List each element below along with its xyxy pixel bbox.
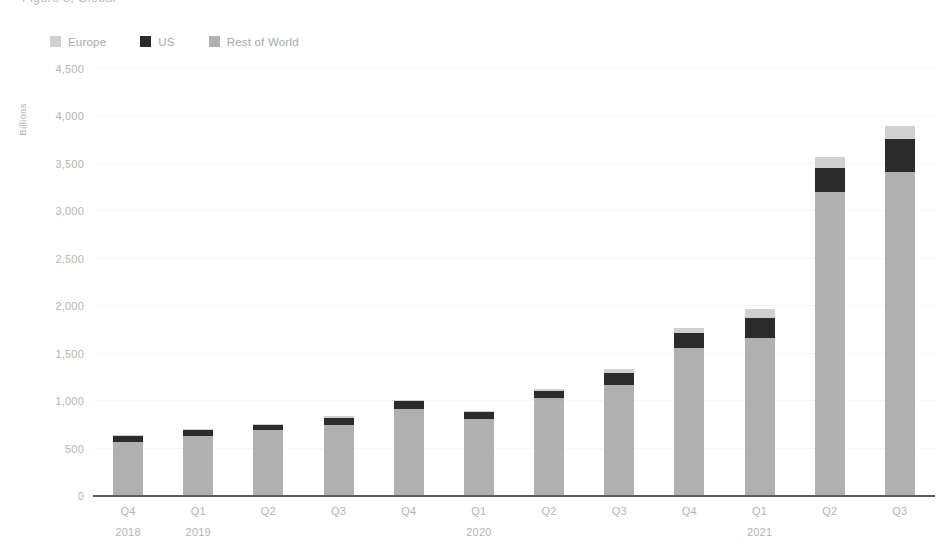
bar-segment-us[interactable]	[534, 391, 564, 398]
bar-group[interactable]	[113, 435, 143, 495]
bar-segment-us[interactable]	[674, 333, 704, 348]
bar-segment-us[interactable]	[394, 401, 424, 409]
bar-group[interactable]	[464, 411, 494, 495]
y-tick-label: 3,000	[55, 205, 84, 217]
bar-group[interactable]	[815, 157, 845, 495]
legend-swatch-icon	[140, 36, 151, 47]
x-tick-quarter: Q1	[444, 505, 514, 517]
legend-item-us[interactable]: US	[140, 36, 174, 48]
y-tick-label: 2,000	[55, 300, 84, 312]
bar-group[interactable]	[674, 328, 704, 495]
x-tick-year: 2020	[444, 526, 514, 538]
y-tick-label: 4,000	[55, 110, 84, 122]
x-tick-quarter: Q1	[725, 505, 795, 517]
bar-segment-us[interactable]	[604, 373, 634, 385]
chart-title-clipped: Figure 3, Global	[0, 0, 947, 9]
x-tick-quarter: Q3	[584, 505, 654, 517]
bar-segment-rest-of-world[interactable]	[885, 172, 915, 495]
page-title: Figure 3, Global	[0, 0, 947, 5]
plot-area: 4,5004,0003,5003,0002,5002,0001,5001,000…	[93, 68, 935, 495]
bar-group[interactable]	[534, 389, 564, 495]
legend-label: Rest of World	[227, 36, 299, 48]
x-tick-quarter: Q4	[93, 505, 163, 517]
bar-segment-us[interactable]	[815, 168, 845, 193]
bar-group[interactable]	[885, 126, 915, 495]
legend-label: US	[158, 36, 174, 48]
legend-swatch-icon	[50, 36, 61, 47]
x-tick-label: Q3	[865, 505, 935, 517]
x-tick-label: Q2	[233, 505, 303, 517]
y-axis-title: Billions	[14, 84, 30, 154]
y-tick-label: 1,500	[55, 348, 84, 360]
bar-group[interactable]	[394, 400, 424, 495]
x-tick-label: Q4	[654, 505, 724, 517]
y-axis-title-label: Billions	[17, 103, 28, 136]
x-tick-label: Q2	[795, 505, 865, 517]
stacked-bar-chart: Figure 3, Global EuropeUSRest of World B…	[0, 0, 947, 553]
x-tick-label: Q3	[304, 505, 374, 517]
bar-segment-rest-of-world[interactable]	[674, 348, 704, 495]
bar-segment-rest-of-world[interactable]	[604, 385, 634, 495]
y-tick-label: 4,500	[55, 63, 84, 75]
chart-legend: EuropeUSRest of World	[50, 34, 333, 49]
legend-item-europe[interactable]: Europe	[50, 36, 106, 48]
bar-segment-europe[interactable]	[815, 157, 845, 168]
bar-segment-rest-of-world[interactable]	[394, 409, 424, 495]
bar-group[interactable]	[745, 309, 775, 495]
y-tick-label: 0	[78, 490, 84, 502]
x-tick-label: Q12019	[163, 505, 233, 538]
x-tick-quarter: Q4	[374, 505, 444, 517]
x-tick-year: 2018	[93, 526, 163, 538]
bar-segment-us[interactable]	[885, 139, 915, 172]
bar-group[interactable]	[183, 429, 213, 495]
y-tick-label: 3,500	[55, 158, 84, 170]
bars-layer	[93, 68, 935, 495]
x-axis-labels: Q42018Q12019Q2Q3Q4Q12020Q2Q3Q4Q12021Q2Q3	[93, 505, 935, 553]
x-tick-quarter: Q3	[304, 505, 374, 517]
bar-segment-rest-of-world[interactable]	[815, 192, 845, 495]
x-tick-quarter: Q2	[795, 505, 865, 517]
x-tick-label: Q42018	[93, 505, 163, 538]
y-tick-label: 2,500	[55, 253, 84, 265]
x-tick-label: Q4	[374, 505, 444, 517]
x-tick-quarter: Q4	[654, 505, 724, 517]
x-tick-quarter: Q1	[163, 505, 233, 517]
x-tick-quarter: Q2	[233, 505, 303, 517]
x-tick-quarter: Q3	[865, 505, 935, 517]
bar-segment-rest-of-world[interactable]	[253, 430, 283, 495]
bar-segment-rest-of-world[interactable]	[464, 419, 494, 495]
bar-segment-rest-of-world[interactable]	[534, 398, 564, 495]
x-tick-year: 2021	[725, 526, 795, 538]
legend-swatch-icon	[209, 36, 220, 47]
bar-segment-europe[interactable]	[745, 309, 775, 318]
x-tick-label: Q12021	[725, 505, 795, 538]
x-tick-label: Q3	[584, 505, 654, 517]
legend-label: Europe	[68, 36, 106, 48]
bar-segment-rest-of-world[interactable]	[745, 338, 775, 495]
x-tick-label: Q2	[514, 505, 584, 517]
x-tick-quarter: Q2	[514, 505, 584, 517]
bar-segment-us[interactable]	[745, 318, 775, 339]
bar-group[interactable]	[324, 416, 354, 495]
axis-baseline: 0	[93, 495, 935, 497]
x-tick-year: 2019	[163, 526, 233, 538]
bar-segment-us[interactable]	[324, 418, 354, 425]
bar-group[interactable]	[253, 424, 283, 495]
y-tick-label: 500	[65, 443, 84, 455]
y-tick-label: 1,000	[55, 395, 84, 407]
bar-group[interactable]	[604, 369, 634, 495]
legend-item-rest-of-world[interactable]: Rest of World	[209, 36, 299, 48]
bar-segment-rest-of-world[interactable]	[324, 425, 354, 495]
x-tick-label: Q12020	[444, 505, 514, 538]
bar-segment-rest-of-world[interactable]	[183, 436, 213, 495]
bar-segment-rest-of-world[interactable]	[113, 442, 143, 495]
bar-segment-europe[interactable]	[885, 126, 915, 139]
